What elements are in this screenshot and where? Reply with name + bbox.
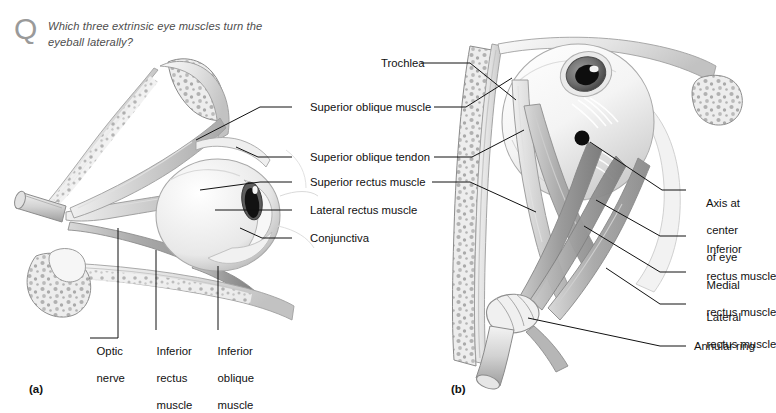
- label-lateral-rectus-b-line1: Lateral: [707, 311, 742, 323]
- label-inferior-rectus-a-line3: muscle: [157, 399, 193, 411]
- question-text: Which three extrinsic eye muscles turn t…: [48, 19, 298, 50]
- panel-caption-b: (b): [451, 383, 466, 395]
- label-lateral-rectus-muscle: Lateral rectus muscle: [310, 204, 417, 217]
- label-medial-rectus-b-line1: Medial: [707, 279, 740, 291]
- axis-center-dot-b: [575, 131, 590, 146]
- panel-a-artwork: [13, 59, 318, 320]
- label-optic-nerve-line2: nerve: [97, 372, 125, 384]
- label-axis-line1: Axis at: [706, 197, 740, 209]
- label-superior-oblique-tendon: Superior oblique tendon: [310, 151, 430, 164]
- panel-caption-a: (a): [29, 383, 43, 395]
- label-inferior-rectus-a-line2: rectus: [157, 372, 188, 384]
- corneal-highlight-a: [252, 186, 257, 194]
- label-inferior-rectus-a-line1: Inferior: [157, 345, 192, 357]
- label-conjunctiva: Conjunctiva: [310, 232, 369, 245]
- label-annular-ring: Annular ring: [694, 340, 755, 353]
- label-superior-rectus-muscle: Superior rectus muscle: [310, 176, 426, 189]
- label-inferior-rectus-b-line1: Inferior: [707, 243, 742, 255]
- label-inferior-oblique-a-line1: Inferior: [218, 345, 253, 357]
- label-inferior-oblique-a-line3: muscle: [218, 399, 254, 411]
- corneal-highlight-b: [590, 66, 599, 72]
- label-inferior-oblique-a-line2: oblique: [218, 372, 254, 384]
- question-q-icon: Q: [14, 14, 44, 44]
- label-optic-nerve-line1: Optic: [97, 345, 123, 357]
- label-trochlea: Trochlea: [381, 57, 425, 70]
- label-inferior-oblique-muscle-a: Inferior oblique muscle: [205, 332, 254, 413]
- label-optic-nerve: Optic nerve: [84, 332, 125, 399]
- label-lateral-rectus-muscle-b: Lateral rectus muscle: [694, 298, 776, 365]
- label-superior-oblique-muscle: Superior oblique muscle: [310, 101, 431, 114]
- label-inferior-rectus-muscle-a: Inferior rectus muscle: [144, 332, 192, 413]
